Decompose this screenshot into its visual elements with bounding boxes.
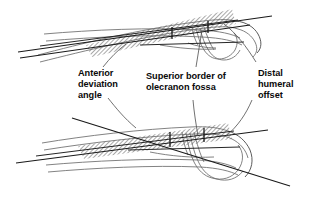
label-anterior-deviation-angle: Anterior deviation angle — [78, 68, 118, 100]
label-line: offset — [258, 90, 283, 100]
label-line: Superior border of — [146, 71, 227, 81]
diagram-canvas: Anterior deviation angle Superior border… — [0, 0, 310, 207]
lower-reference-lines — [16, 118, 290, 186]
label-distal-humeral-offset: Distal humeral offset — [258, 68, 293, 100]
leader-anterior-deviation-lower — [108, 98, 136, 128]
label-line: deviation — [78, 79, 118, 89]
anatomical-figure: Anterior deviation angle Superior border… — [0, 0, 310, 207]
label-line: olecranon fossa — [146, 82, 217, 92]
label-superior-border-olecranon-fossa: Superior border of olecranon fossa — [146, 71, 227, 92]
label-line: Distal — [258, 68, 283, 78]
lower-humerus-view — [16, 118, 290, 186]
leader-superior-border-upper — [196, 30, 202, 67]
label-line: Anterior — [78, 68, 114, 78]
label-line: humeral — [258, 79, 293, 89]
upper-humerus-view — [18, 9, 272, 62]
label-line: angle — [78, 90, 102, 100]
